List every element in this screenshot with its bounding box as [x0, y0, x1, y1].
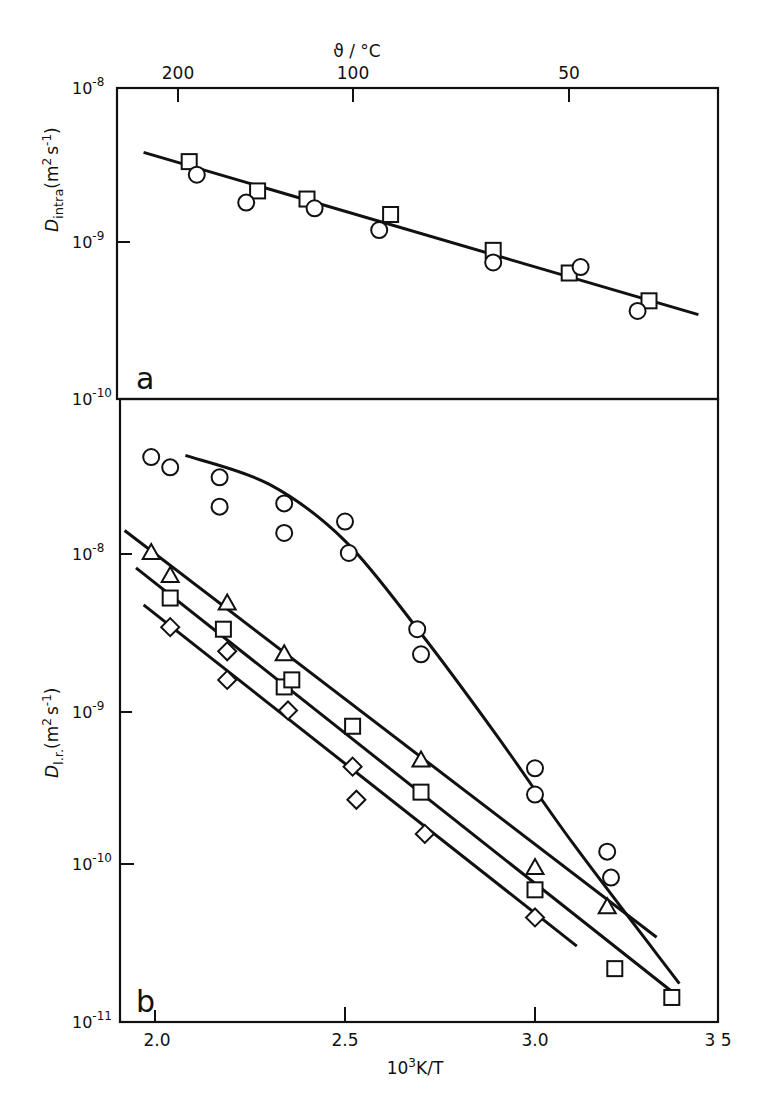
- panel-b-diamonds-marker: [347, 791, 365, 809]
- top-axis: 200 100 50 ϑ / °C: [162, 41, 580, 102]
- panel-b-diamonds-marker: [416, 825, 434, 843]
- bottom-tick-label-2.0: 2.0: [143, 1030, 170, 1050]
- panel-b-triangles-marker: [219, 594, 236, 609]
- panel-b-circles-marker: [413, 646, 429, 662]
- top-tick-label-100: 100: [337, 63, 369, 83]
- panel-a-ytick-label-1e-9: 10-9: [72, 229, 104, 252]
- panel-b-squares-marker: [664, 990, 679, 1005]
- panel-b-circles-marker: [409, 621, 425, 637]
- panel-b-circles-marker: [212, 499, 228, 515]
- panel-b-diamonds-marker: [279, 701, 297, 719]
- panel-b-circles-marker: [527, 787, 543, 803]
- panel-a-ytick-label-1e-8: 10-8: [72, 75, 104, 98]
- panel-a-circles-marker: [630, 303, 646, 319]
- panel-a-y-axis: 10-8 10-9 10-10 Dintra(m2s-1) a: [40, 75, 154, 409]
- bottom-tick-label-3.5: 3 5: [704, 1030, 731, 1050]
- fit-line: [144, 152, 699, 314]
- plot-frames: [117, 88, 718, 1022]
- bottom-axis-title: 103K/T: [387, 1056, 444, 1078]
- panel-b-ytick-label-1e-11: 10-11: [72, 1009, 112, 1032]
- panel-b-triangles-marker: [527, 859, 544, 874]
- panel-b-circles-marker: [603, 870, 619, 886]
- panel-b-diamonds-marker: [218, 671, 236, 689]
- panel-b-circles-marker: [162, 459, 178, 475]
- panel-b-circles-marker: [337, 514, 353, 530]
- bottom-tick-label-3.0: 3.0: [521, 1030, 548, 1050]
- triangles-fit-line: [125, 530, 657, 937]
- panel-a-circles-marker: [238, 195, 254, 211]
- panel-b-circles-marker: [276, 525, 292, 541]
- panel-b-squares-marker: [607, 961, 622, 976]
- panel-b-circles-marker: [599, 844, 615, 860]
- panel-b-circles-marker: [341, 545, 357, 561]
- panel-a-frame: [117, 88, 718, 399]
- panel-b-y-axis: 10-8 10-9 10-10 10-11 Dl.r.(m2s-1) b: [40, 541, 155, 1032]
- panel-b-ytick-label-1e-9: 10-9: [72, 699, 104, 722]
- panel-a-ytick-label-1e-10: 10-10: [72, 386, 112, 409]
- panel-b-squares-marker: [345, 719, 360, 734]
- top-tick-label-200: 200: [162, 63, 194, 83]
- panel-a-ylabel: Dintra(m2s-1): [40, 127, 66, 232]
- panel-a-circles-marker: [573, 259, 589, 275]
- panel-b-squares-marker: [163, 591, 178, 606]
- panel-b-ytick-label-1e-10: 10-10: [72, 851, 112, 874]
- panel-b-squares-marker: [528, 882, 543, 897]
- panel-a-circles-marker: [371, 222, 387, 238]
- diamonds-fit-line: [144, 605, 577, 946]
- bottom-tick-label-2.5: 2.5: [331, 1030, 358, 1050]
- panel-b-squares-marker: [216, 622, 231, 637]
- panel-a-circles-marker: [485, 254, 501, 270]
- top-axis-title: ϑ / °C: [333, 41, 380, 61]
- panel-b-letter: b: [136, 984, 155, 1019]
- panel-b-circles-marker: [527, 760, 543, 776]
- data-series: [125, 152, 699, 1005]
- panel-b-ytick-label-1e-8: 10-8: [72, 541, 104, 564]
- panel-b-squares-marker: [414, 785, 429, 800]
- panel-a-squares-marker: [383, 207, 398, 222]
- panel-a-data: [144, 152, 699, 319]
- panel-b-frame: [120, 399, 718, 1022]
- bottom-axis: 2.0 2.5 3.0 3 5 103K/T: [143, 1007, 731, 1078]
- panel-b-data: [125, 449, 680, 1005]
- panel-b-diamonds-marker: [526, 908, 544, 926]
- panel-b-circles-marker: [212, 469, 228, 485]
- top-tick-label-50: 50: [558, 63, 580, 83]
- arrhenius-chart: 200 100 50 ϑ / °C 2.0 2.5 3.0 3 5 103K/T…: [0, 0, 762, 1104]
- panel-b-squares-marker: [284, 672, 299, 687]
- panel-a-circles-marker: [307, 200, 323, 216]
- panel-b-ylabel: Dl.r.(m2s-1): [40, 688, 66, 778]
- panel-a-letter: a: [136, 361, 154, 396]
- panel-a-circles-marker: [189, 167, 205, 183]
- panel-b-circles-marker: [276, 495, 292, 511]
- panel-b-circles-marker: [143, 449, 159, 465]
